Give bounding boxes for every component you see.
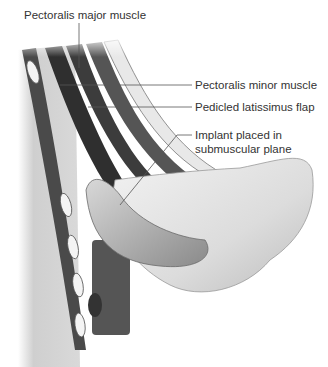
- anatomy-illustration: [0, 0, 328, 367]
- label-latissimus-flap: Pedicled latissimus flap: [195, 101, 315, 114]
- label-implant-line1: Implant placed in: [195, 129, 282, 142]
- anatomy-figure: Pectoralis major muscle Pectoralis minor…: [0, 0, 328, 367]
- label-pectoralis-minor: Pectoralis minor muscle: [195, 79, 317, 92]
- label-implant-line2: submuscular plane: [195, 143, 292, 156]
- label-pectoralis-major: Pectoralis major muscle: [24, 9, 146, 22]
